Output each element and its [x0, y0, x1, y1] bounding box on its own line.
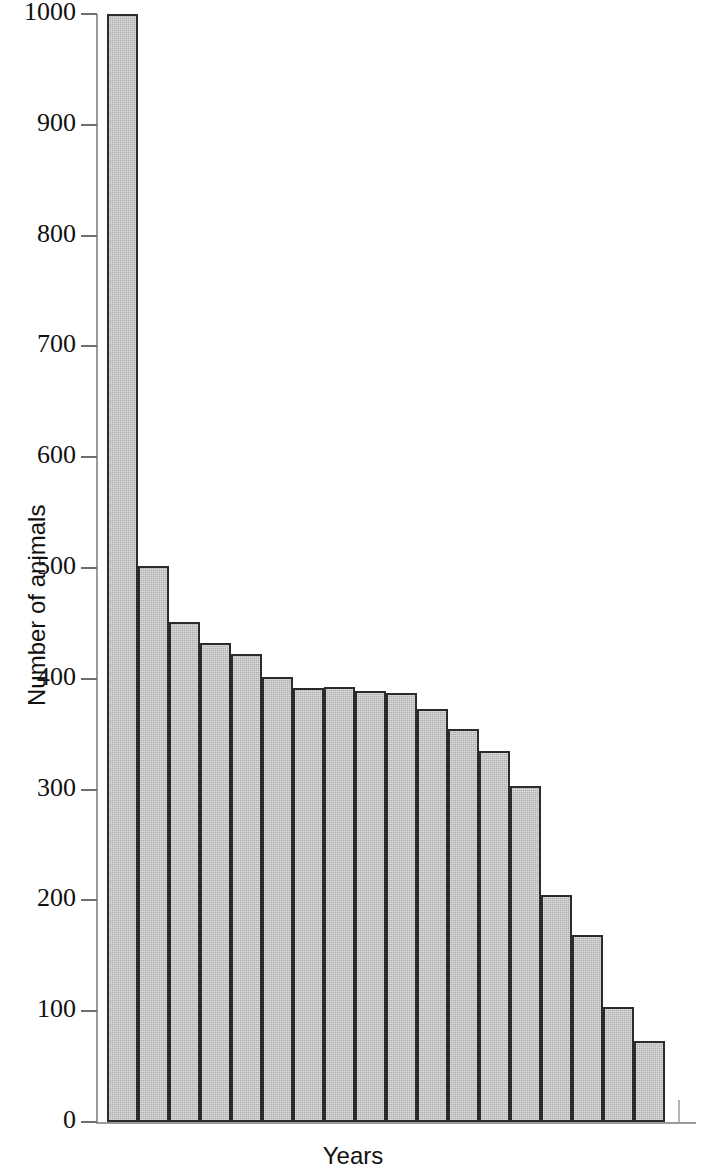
bar: [262, 677, 293, 1122]
y-axis-title: Number of animals: [23, 506, 51, 706]
bar: [107, 14, 138, 1122]
bar: [386, 693, 417, 1122]
x-axis-title: Years: [0, 1142, 706, 1170]
bar: [634, 1041, 665, 1122]
bar: [138, 566, 169, 1122]
bar-chart: 10009008007006005004003002001000 Number …: [0, 0, 706, 1173]
bar: [479, 751, 510, 1122]
bar: [169, 622, 200, 1122]
bar: [417, 709, 448, 1122]
bar: [231, 654, 262, 1122]
bar: [541, 895, 572, 1122]
bars-layer: [0, 0, 706, 1173]
bar: [510, 786, 541, 1122]
bar: [603, 1007, 634, 1122]
bar: [572, 935, 603, 1122]
bar: [355, 691, 386, 1122]
bar: [448, 729, 479, 1122]
bar: [200, 643, 231, 1122]
bar: [293, 688, 324, 1122]
bar: [324, 687, 355, 1122]
